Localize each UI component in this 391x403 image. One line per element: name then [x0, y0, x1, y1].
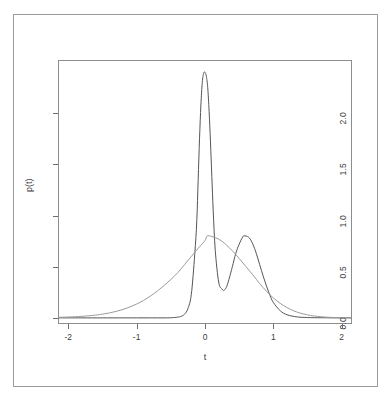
plot-area: 0.00.51.01.52.0 -2-1012 — [58, 60, 352, 324]
x-tick-mark — [205, 324, 206, 329]
x-tick-mark — [273, 324, 274, 329]
x-tick-mark — [342, 324, 343, 329]
x-tick-label: -2 — [64, 332, 72, 342]
x-tick-mark — [137, 324, 138, 329]
x-tick-label: 0 — [203, 332, 208, 342]
chart-screenshot: p(t) t 0.00.51.01.52.0 -2-1012 — [0, 0, 391, 403]
x-tick-label: -1 — [133, 332, 141, 342]
y-axis-title: p(t) — [24, 179, 34, 193]
curve-broad-density — [58, 236, 352, 318]
curves-layer — [58, 60, 352, 324]
x-tick-label: 2 — [339, 332, 344, 342]
curve-bimodal-density — [58, 72, 352, 318]
x-axis-title: t — [58, 352, 352, 362]
x-tick-mark — [68, 324, 69, 329]
x-tick-label: 1 — [271, 332, 276, 342]
